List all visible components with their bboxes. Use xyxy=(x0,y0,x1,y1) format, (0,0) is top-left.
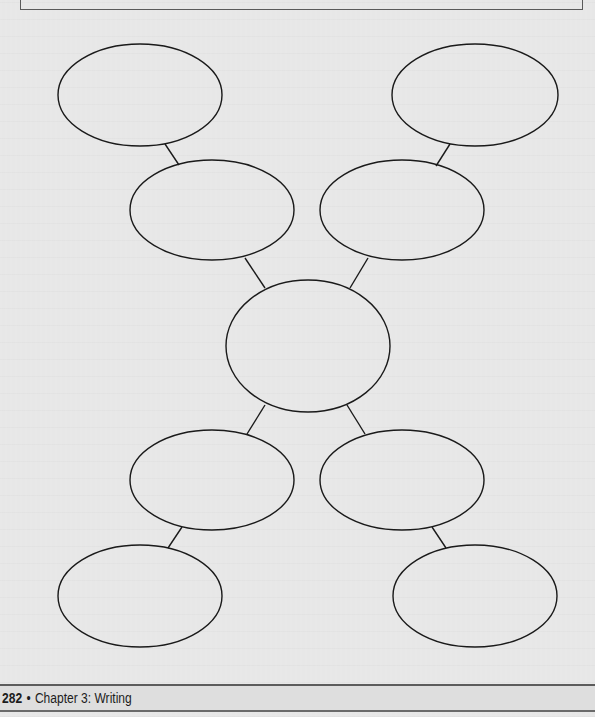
connector-center-to-lower-right xyxy=(347,405,365,434)
node-lower-left-ellipse xyxy=(130,430,294,530)
connector-lower-left-to-bottom-left xyxy=(168,527,182,548)
node-top-left-ellipse xyxy=(58,44,222,146)
node-bottom-left-ellipse xyxy=(58,545,222,647)
node-top-right-ellipse xyxy=(392,44,558,146)
node-upper-left-ellipse xyxy=(130,160,294,260)
node-lower-right-ellipse xyxy=(320,430,484,530)
chapter-title: Chapter 3: Writing xyxy=(35,690,132,706)
connector-upper-left-to-center xyxy=(245,258,265,288)
connector-lower-right-to-bottom-right xyxy=(432,527,446,548)
connector-center-to-lower-left xyxy=(247,405,265,434)
bullet-separator: • xyxy=(26,690,30,706)
web-diagram xyxy=(0,0,595,680)
node-upper-right-ellipse xyxy=(320,160,484,260)
connector-upper-right-to-center xyxy=(350,258,368,288)
page-footer: 282•Chapter 3: Writing xyxy=(0,684,595,712)
connector-lines xyxy=(165,144,450,548)
page-number: 282 xyxy=(2,690,22,706)
node-center-ellipse xyxy=(226,280,390,412)
footer-text: 282•Chapter 3: Writing xyxy=(2,690,132,706)
ellipse-nodes xyxy=(58,44,558,647)
connector-top-left-to-upper-left xyxy=(165,144,179,165)
connector-top-right-to-upper-right xyxy=(436,144,450,166)
node-bottom-right-ellipse xyxy=(393,545,557,647)
